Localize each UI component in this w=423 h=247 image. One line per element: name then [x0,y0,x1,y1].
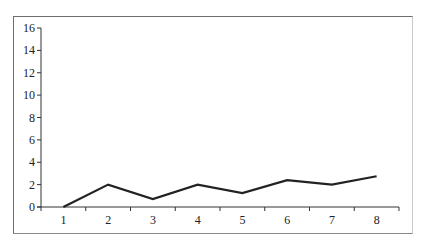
x-tick-label: 3 [150,213,156,227]
y-tick-label: 14 [23,43,35,57]
y-tick-label: 2 [29,178,35,192]
y-tick-label: 4 [29,155,35,169]
x-tick-label: 4 [195,213,201,227]
y-axis: 0246810121416 [23,21,41,214]
y-tick-label: 6 [29,133,35,147]
series-line [63,176,376,207]
x-tick-label: 2 [105,213,111,227]
x-tick-label: 7 [329,213,335,227]
data-series [63,176,376,207]
y-tick-label: 16 [23,21,35,35]
x-tick-label: 1 [60,213,66,227]
x-tick-label: 6 [284,213,290,227]
y-tick-label: 10 [23,88,35,102]
y-tick-label: 8 [29,111,35,125]
x-axis: 12345678 [37,207,399,227]
y-tick-label: 0 [29,200,35,214]
y-tick-label: 12 [23,66,35,80]
x-tick-label: 5 [239,213,245,227]
x-tick-label: 8 [374,213,380,227]
line-chart: 0246810121416 12345678 [0,0,423,247]
